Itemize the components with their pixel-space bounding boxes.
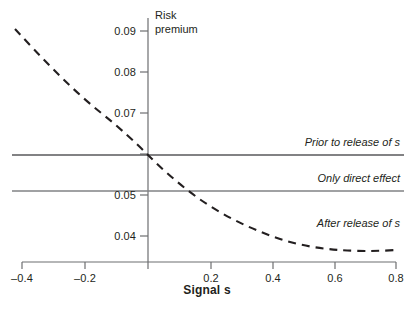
annotation-prior-to-release: Prior to release of s xyxy=(305,136,400,148)
annotation-after-release: After release of s xyxy=(317,217,400,229)
ytick-label-1: 0.08 xyxy=(104,66,136,78)
ytick-label-2: 0.07 xyxy=(104,107,136,119)
annotation-only-direct-effect: Only direct effect xyxy=(317,172,400,184)
risk-premium-chart: 0.09 0.08 0.07 0.05 0.04 –0.4 –0.2 0.2 0… xyxy=(0,0,414,310)
ytick-label-5: 0.04 xyxy=(104,230,136,242)
y-axis-ticks xyxy=(140,31,148,236)
x-axis-ticks xyxy=(22,262,396,269)
y-axis-title-line1: Risk xyxy=(155,9,198,23)
chart-plot-area xyxy=(0,0,414,310)
y-axis-title-line2: premium xyxy=(155,23,198,37)
y-axis-title: Risk premium xyxy=(155,9,198,36)
ytick-label-4: 0.05 xyxy=(104,189,136,201)
ytick-label-0: 0.09 xyxy=(104,25,136,37)
x-axis-title: Signal s xyxy=(0,283,414,297)
